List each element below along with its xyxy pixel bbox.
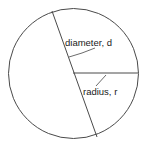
diameter-leader-line xyxy=(69,48,95,57)
circle-diagram-figure: diameter, d radius, r xyxy=(0,0,149,149)
diameter-label: diameter, d xyxy=(65,37,112,48)
radius-leader-line xyxy=(96,75,106,86)
circle-diagram-canvas: diameter, d radius, r xyxy=(0,0,149,149)
diameter-line xyxy=(52,11,97,137)
radius-label: radius, r xyxy=(83,86,117,97)
